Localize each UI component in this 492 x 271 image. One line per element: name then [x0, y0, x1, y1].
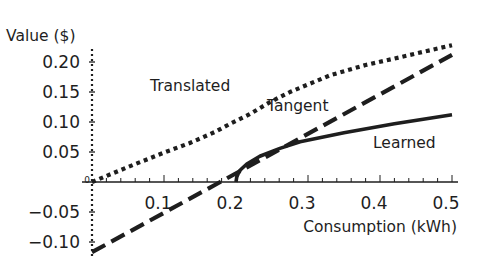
- tangent-label: Tangent: [266, 97, 329, 115]
- y-tick-label: −0.10: [28, 232, 80, 252]
- y-axis: [89, 49, 95, 256]
- y-tick-label: 0.15: [42, 82, 80, 102]
- chart: 00.200.150.100.05−0.05−0.10 0.10.20.30.4…: [0, 0, 492, 271]
- origin-label: 0: [84, 175, 90, 185]
- x-tick-label: 0.1: [144, 193, 171, 213]
- x-axis: [82, 175, 458, 182]
- x-tick-label: 0.3: [288, 193, 315, 213]
- x-axis-title: Consumption (kWh): [303, 218, 457, 236]
- y-tick-label: 0.10: [42, 112, 80, 132]
- plot-area: 00.200.150.100.05−0.05−0.10 0.10.20.30.4…: [0, 0, 492, 271]
- y-tick-label: 0.05: [42, 142, 80, 162]
- y-tick-labels: 00.200.150.100.05−0.05−0.10: [28, 52, 90, 252]
- x-tick-label: 0.2: [216, 193, 243, 213]
- y-tick-label: 0.20: [42, 52, 80, 72]
- y-tick-label: −0.05: [28, 202, 80, 222]
- y-axis-title: Value ($): [6, 27, 75, 45]
- x-tick-label: 0.4: [360, 193, 387, 213]
- learned-label: Learned: [373, 134, 436, 152]
- translated-label: Translated: [149, 77, 230, 95]
- x-tick-label: 0.5: [432, 193, 459, 213]
